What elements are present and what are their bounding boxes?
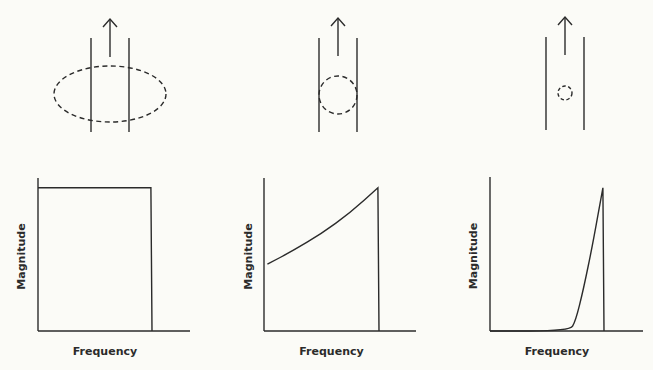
- x-axis-label: Frequency: [73, 345, 137, 358]
- conductor-diagram-2: [319, 18, 357, 132]
- response-curve: [490, 188, 604, 331]
- up-arrow-icon: [103, 19, 117, 57]
- figure: Frequency Magnitude Frequency Magnitude …: [0, 0, 653, 370]
- y-axis-label: Magnitude: [15, 223, 28, 289]
- magnitude-graph-2: Frequency Magnitude: [242, 178, 416, 358]
- up-arrow-icon: [558, 17, 572, 55]
- dashed-field-loop: [54, 66, 166, 122]
- magnitude-graph-3: Frequency Magnitude: [467, 177, 643, 358]
- x-axis-label: Frequency: [525, 345, 589, 358]
- dashed-field-loop: [319, 76, 357, 114]
- response-curve: [267, 188, 379, 331]
- conductor-diagram-3: [546, 17, 584, 130]
- up-arrow-icon: [331, 18, 345, 56]
- conductor-diagram-1: [54, 19, 166, 132]
- response-curve: [38, 188, 152, 331]
- y-axis-label: Magnitude: [467, 223, 480, 289]
- y-axis-label: Magnitude: [242, 223, 255, 289]
- x-axis-label: Frequency: [299, 345, 363, 358]
- magnitude-graph-1: Frequency Magnitude: [15, 178, 190, 358]
- dashed-field-loop: [558, 86, 572, 100]
